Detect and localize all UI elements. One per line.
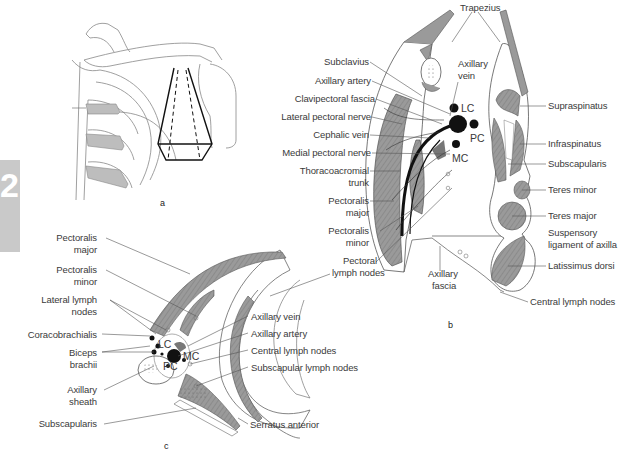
label-axillary-vein-b1: Axillary [458, 58, 488, 70]
cord-lc-b: LC [461, 102, 474, 114]
label-pectoral-nodes-2: lymph nodes [332, 267, 385, 279]
label-lateral-pectoral-nerve: Lateral pectoral nerve [281, 111, 371, 123]
label-supraspinatus: Supraspinatus [548, 100, 607, 112]
label-axillary-vein-c: Axillary vein [251, 311, 300, 323]
label-medial-pectoral-nerve: Medial pectoral nerve [282, 147, 371, 159]
label-latissimus-dorsi: Latissimus dorsi [548, 260, 615, 272]
panel-b-section [366, 10, 535, 292]
panel-c-letter: c [164, 441, 169, 451]
label-biceps-1: Biceps [69, 347, 97, 359]
label-pectoralis-major-c2: major [74, 244, 97, 256]
label-axillary-sheath-2: sheath [69, 396, 97, 408]
label-clavipectoral-fascia: Clavipectoral fascia [295, 93, 375, 105]
label-subscapular-nodes: Subscapular lymph nodes [251, 362, 358, 374]
label-subclavius: Subclavius [324, 56, 369, 68]
cord-lc-c: LC [158, 338, 171, 350]
label-suspensory-1: Suspensory [548, 227, 597, 239]
label-axillary-vein-b2: vein [458, 70, 475, 82]
cord-pc-b: PC [470, 132, 484, 144]
label-pectoralis-major-b2: major [346, 207, 369, 219]
label-axillary-fascia-2: fascia [432, 280, 456, 292]
panel-a-letter: a [160, 198, 165, 208]
panel-b-letter: b [448, 320, 453, 330]
axilla-pyramid [158, 68, 212, 160]
label-axillary-fascia-1: Axillary [428, 268, 458, 280]
label-biceps-2: brachii [70, 359, 97, 371]
costal-cartilages [86, 104, 128, 188]
label-teres-minor: Teres minor [548, 184, 597, 196]
cord-mc-b: MC [452, 152, 468, 164]
label-lateral-nodes-2: nodes [72, 306, 97, 318]
label-thoracoacromial-1: Thoracoacromial [300, 165, 369, 177]
label-pectoralis-minor-c1: Pectoralis [56, 264, 97, 276]
label-cephalic-vein: Cephalic vein [313, 129, 369, 141]
label-thoracoacromial-2: trunk [348, 177, 369, 189]
label-infraspinatus: Infraspinatus [548, 138, 601, 150]
label-axillary-artery-b: Axillary artery [315, 75, 371, 87]
label-serratus-anterior: Serratus anterior [250, 419, 319, 431]
label-pectoralis-major-b1: Pectoralis [328, 195, 369, 207]
cord-pc-c: PC [163, 360, 177, 372]
label-suspensory-2: ligament of axilla [548, 239, 617, 251]
cord-mc-c: MC [183, 350, 199, 362]
label-central-nodes-c: Central lymph nodes [251, 345, 336, 357]
label-pectoralis-minor-b1: Pectoralis [328, 225, 369, 237]
label-subscapularis-c: Subscapularis [39, 418, 97, 430]
label-subscapularis-b: Subscapularis [548, 158, 606, 170]
label-lateral-nodes-1: Lateral lymph [41, 294, 97, 306]
label-pectoralis-minor-b2: minor [346, 237, 369, 249]
label-axillary-sheath-1: Axillary [67, 384, 97, 396]
label-teres-major: Teres major [548, 210, 597, 222]
label-central-nodes-b: Central lymph nodes [530, 296, 615, 308]
label-pectoralis-major-c1: Pectoralis [56, 232, 97, 244]
label-axillary-artery-c: Axillary artery [251, 328, 307, 340]
label-coracobrachialis: Coracobrachialis [28, 329, 97, 341]
label-trapezius: Trapezius [460, 2, 500, 14]
label-pectoral-nodes-1: Pectoral [343, 255, 377, 267]
label-pectoralis-minor-c2: minor [74, 276, 97, 288]
